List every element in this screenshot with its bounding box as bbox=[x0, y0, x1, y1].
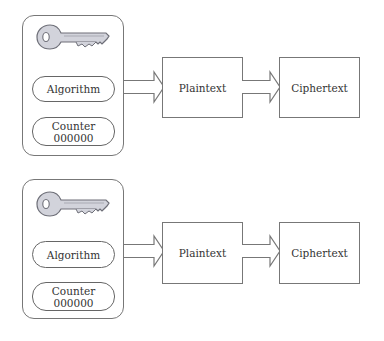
arrow-right-icon bbox=[124, 70, 166, 104]
algorithm-pill: Algorithm bbox=[32, 76, 115, 102]
ciphertext-label: Ciphertext bbox=[291, 82, 348, 94]
encryption-group-2: Algorithm Counter 000000 Plaintext Ciphe… bbox=[0, 164, 384, 334]
ciphertext-label: Ciphertext bbox=[291, 247, 348, 259]
arrow-right-icon bbox=[242, 234, 282, 268]
counter-label: Counter bbox=[52, 285, 95, 297]
ciphertext-box: Ciphertext bbox=[279, 222, 360, 284]
algorithm-pill: Algorithm bbox=[32, 241, 115, 268]
counter-pill: Counter 000000 bbox=[32, 117, 115, 146]
plaintext-label: Plaintext bbox=[179, 82, 226, 94]
encryption-group-1: Algorithm Counter 000000 Plaintext Ciphe… bbox=[0, 0, 384, 170]
key-icon bbox=[36, 190, 110, 218]
arrow-right-icon bbox=[124, 234, 166, 268]
algorithm-label: Algorithm bbox=[47, 249, 100, 261]
plaintext-box: Plaintext bbox=[162, 222, 243, 284]
plaintext-label: Plaintext bbox=[179, 247, 226, 259]
counter-pill: Counter 000000 bbox=[32, 282, 115, 311]
counter-value: 000000 bbox=[53, 297, 93, 309]
algorithm-label: Algorithm bbox=[47, 83, 100, 95]
ciphertext-box: Ciphertext bbox=[279, 57, 360, 118]
plaintext-box: Plaintext bbox=[162, 57, 243, 118]
key-icon bbox=[36, 23, 110, 51]
arrow-right-icon bbox=[242, 70, 282, 104]
counter-value: 000000 bbox=[53, 132, 93, 144]
counter-label: Counter bbox=[52, 120, 95, 132]
